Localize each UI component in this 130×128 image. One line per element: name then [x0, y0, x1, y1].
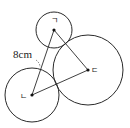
- label-center-b: ㄴ: [20, 92, 27, 101]
- center-point-c: [86, 68, 89, 71]
- label-center-a: ㄱ: [51, 16, 58, 25]
- length-label-ab: 8cm: [13, 48, 32, 60]
- center-point-a: [52, 28, 55, 31]
- segment-a-b: [32, 30, 54, 95]
- label-center-c: ㄷ: [91, 66, 98, 75]
- length-leader-line: [36, 60, 40, 67]
- three-circles-diagram: ㄱ ㄴ ㄷ 8cm: [0, 0, 130, 128]
- center-point-b: [30, 93, 33, 96]
